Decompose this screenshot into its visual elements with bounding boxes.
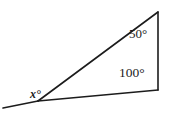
- base-right-angle-label: 100°: [119, 66, 145, 80]
- triangle-diagram-svg: [0, 0, 169, 114]
- apex-angle-label: 50°: [129, 27, 147, 40]
- base-left-angle-label: x°: [30, 88, 41, 100]
- geometry-figure: 50° 100° x°: [0, 0, 169, 114]
